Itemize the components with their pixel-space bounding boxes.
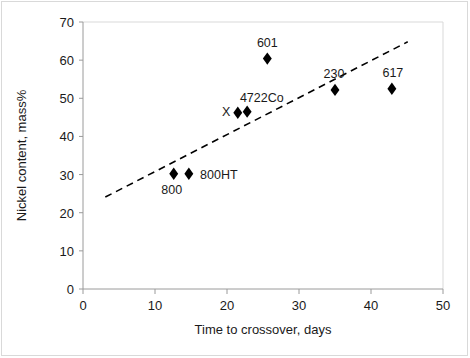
x-axis-title: Time to crossover, days [195, 322, 332, 337]
data-point-label: 4722Co [240, 91, 284, 105]
y-axis-title: Nickel content, mass% [14, 89, 29, 221]
data-point-marker [263, 52, 272, 64]
data-point-label: X [222, 105, 231, 119]
x-axis-tick-label: 40 [364, 298, 378, 313]
data-point-marker [169, 168, 178, 180]
y-axis-tick-label: 60 [60, 53, 74, 68]
data-point-marker [233, 107, 242, 119]
x-axis-tick-label: 0 [79, 298, 86, 313]
data-point-label: 601 [257, 36, 278, 50]
y-axis-tick-label: 70 [60, 15, 74, 30]
data-point-label: 800HT [200, 168, 238, 182]
y-axis-tick-label: 40 [60, 129, 74, 144]
x-axis-tick-label: 20 [220, 298, 234, 313]
data-point-label: 800 [161, 183, 182, 197]
data-point-label: 230 [324, 67, 345, 81]
x-axis-tick-label: 50 [436, 298, 450, 313]
x-axis-tick-label: 10 [148, 298, 162, 313]
trendline [105, 42, 407, 197]
plot-area: 01020304050607001020304050Time to crosso… [0, 0, 470, 358]
data-point-marker [184, 168, 193, 180]
data-point-label: 617 [382, 66, 403, 80]
x-axis-tick-label: 30 [292, 298, 306, 313]
data-point-marker [243, 105, 252, 117]
data-point-marker [387, 83, 396, 95]
y-axis-tick-label: 0 [67, 282, 74, 297]
y-axis-tick-label: 30 [60, 168, 74, 183]
y-axis-tick-label: 50 [60, 91, 74, 106]
y-axis-tick-label: 10 [60, 244, 74, 259]
scatter-chart: 01020304050607001020304050Time to crosso… [0, 0, 470, 358]
data-point-marker [331, 84, 340, 96]
y-axis-tick-label: 20 [60, 206, 74, 221]
